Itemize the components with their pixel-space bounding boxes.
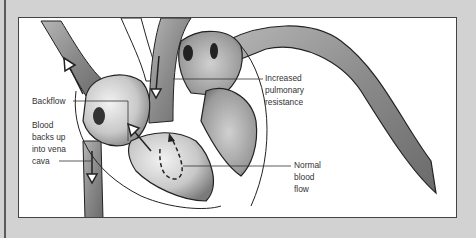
right-ventricle [129,133,214,201]
label-backflow: Backflow [32,95,65,107]
pulmonary-artery [226,26,436,193]
diagram-panel [18,17,457,218]
frame-left-rule [4,0,6,238]
label-increased-pulmonary-resistance: Increased pulmonary resistance [265,72,304,108]
label-normal-blood-flow: Normal blood flow [294,159,321,195]
label-vena-cava-backup: Blood backs up into vena cava [32,119,66,167]
right-atrium [83,75,150,146]
left-atrium [179,31,243,96]
heart-illustration [19,18,457,218]
